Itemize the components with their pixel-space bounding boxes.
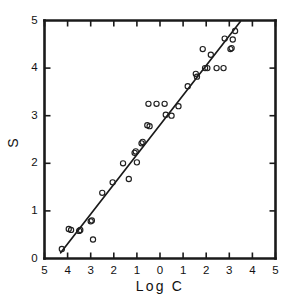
data-point: [230, 37, 235, 42]
x-tick-label: 1: [134, 264, 140, 276]
x-tick-label: 4: [249, 264, 256, 276]
y-axis-label: S: [5, 136, 21, 148]
data-point: [221, 66, 226, 71]
axes-frame: [45, 21, 276, 259]
data-point: [126, 176, 131, 181]
x-tick-label: 3: [226, 264, 232, 276]
y-tick-label: 5: [31, 14, 37, 26]
x-axis-ticks: [45, 21, 276, 259]
x-tick-label: 0: [157, 264, 163, 276]
y-axis-tick-labels: 012345: [31, 14, 38, 264]
x-tick-label: 2: [111, 264, 117, 276]
data-point: [176, 104, 181, 109]
scatter-plot-figure: 54321012345 012345 Log C S: [0, 0, 291, 303]
y-tick-label: 1: [31, 204, 37, 216]
plot-canvas: 54321012345 012345 Log C S: [0, 0, 291, 303]
x-tick-label: 5: [272, 264, 278, 276]
data-point: [208, 52, 213, 57]
data-point: [120, 161, 125, 166]
x-tick-label: 5: [41, 264, 47, 276]
y-tick-label: 4: [31, 61, 38, 73]
data-point: [146, 101, 151, 106]
data-point: [90, 237, 95, 242]
x-axis-label: Log C: [136, 278, 184, 294]
x-tick-label: 1: [180, 264, 186, 276]
y-tick-label: 3: [31, 109, 37, 121]
data-point: [214, 66, 219, 71]
data-point: [200, 46, 205, 51]
x-axis-tick-labels: 54321012345: [41, 264, 278, 276]
data-point: [100, 190, 105, 195]
x-tick-label: 4: [64, 264, 71, 276]
x-tick-label: 3: [87, 264, 93, 276]
data-point: [140, 139, 145, 144]
data-point: [162, 101, 167, 106]
data-point: [169, 113, 174, 118]
data-point: [133, 149, 138, 154]
data-point: [154, 101, 159, 106]
y-axis-ticks: [45, 68, 276, 211]
data-point: [134, 160, 139, 165]
y-tick-label: 2: [31, 156, 37, 168]
y-tick-label: 0: [31, 252, 37, 264]
x-tick-label: 2: [203, 264, 209, 276]
